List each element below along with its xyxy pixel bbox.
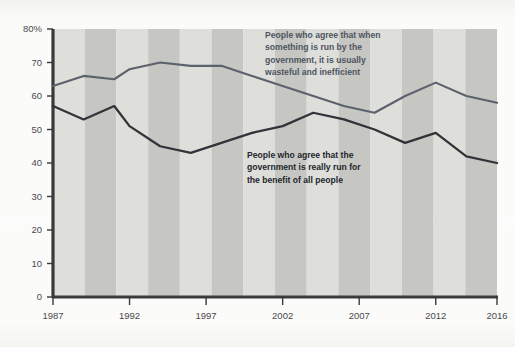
y-tick-label: 50 bbox=[31, 124, 42, 135]
x-tick-label: 1987 bbox=[42, 310, 63, 321]
annotation-line: government is really run for bbox=[247, 162, 361, 172]
annotation-line: People who agree that the bbox=[247, 150, 354, 160]
y-tick-label: 40 bbox=[31, 157, 42, 168]
background-band bbox=[212, 29, 244, 297]
annotation-line: the benefit of all people bbox=[247, 175, 343, 185]
line-chart: 01020304050607080% 198719921997200220072… bbox=[0, 0, 515, 347]
x-axis-labels: 1987199219972002200720122016 bbox=[42, 310, 507, 321]
background-band bbox=[148, 29, 180, 297]
background-band bbox=[85, 29, 117, 297]
background-band bbox=[53, 29, 85, 297]
x-tick-label: 2016 bbox=[486, 310, 507, 321]
y-tick-label: 10 bbox=[31, 258, 42, 269]
x-tick-label: 2007 bbox=[349, 310, 370, 321]
x-axis-ticks bbox=[53, 298, 497, 305]
background-band bbox=[370, 29, 402, 297]
x-tick-label: 1997 bbox=[196, 310, 217, 321]
chart-container: 01020304050607080% 198719921997200220072… bbox=[0, 0, 515, 347]
y-tick-label: 70 bbox=[31, 57, 42, 68]
background-band bbox=[402, 29, 434, 297]
y-axis-labels: 01020304050607080% bbox=[23, 23, 43, 302]
y-tick-label: 80% bbox=[23, 23, 43, 34]
x-tick-label: 1992 bbox=[119, 310, 140, 321]
x-tick-label: 2012 bbox=[425, 310, 446, 321]
y-tick-label: 60 bbox=[31, 90, 42, 101]
annotation-line: government, it is usually bbox=[265, 55, 366, 65]
annotation-line: something is run by the bbox=[265, 42, 362, 52]
annotation-line: wasteful and inefficient bbox=[264, 67, 360, 77]
y-tick-label: 0 bbox=[37, 291, 42, 302]
background-band bbox=[180, 29, 212, 297]
background-band bbox=[434, 29, 466, 297]
y-tick-label: 20 bbox=[31, 224, 42, 235]
annotation-line: People who agree that when bbox=[265, 30, 381, 40]
y-tick-label: 30 bbox=[31, 191, 42, 202]
x-tick-label: 2002 bbox=[272, 310, 293, 321]
